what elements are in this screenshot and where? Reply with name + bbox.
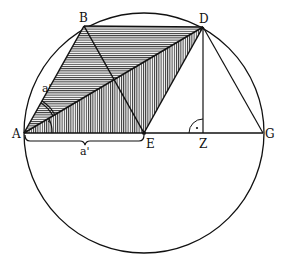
label-side-AB: a': [42, 82, 52, 95]
geometry-diagram: A B D E Z G a' a': [0, 0, 281, 264]
brace-AE: [25, 135, 144, 145]
label-E: E: [146, 137, 155, 151]
label-D: D: [199, 12, 209, 26]
label-side-AE: a': [80, 145, 90, 158]
right-angle-dot: [196, 127, 198, 129]
right-angle-arc-Z: [189, 119, 203, 133]
label-A: A: [11, 127, 21, 141]
segment-BD: [84, 26, 203, 27]
label-Z: Z: [199, 137, 207, 151]
segment-DG: [203, 27, 263, 133]
label-G: G: [265, 127, 275, 141]
label-B: B: [79, 11, 88, 25]
point-E-dot: [142, 131, 146, 135]
